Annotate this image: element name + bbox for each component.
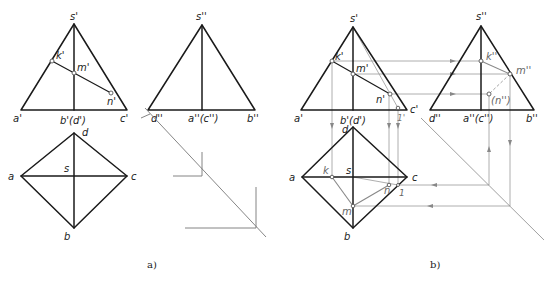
label-s-dprime: s'' [476,11,487,22]
projection-diagram: s' k' m' n' a' c' b'(d') d a c s b s'' d… [0,0,553,284]
panel-b-front-view: s' k' m' n' 1' a' c' b'(d') [294,13,418,126]
point-k [330,175,334,179]
panel-a-side-view: s'' d'' a''(c'') b'' [148,11,259,124]
label-b: b [344,231,350,242]
label-1-prime: 1' [397,113,405,123]
label-s-dprime: s'' [196,11,207,22]
panel-a-45-line [141,108,266,237]
label-d-dprime: d'' [429,113,441,124]
label-a-prime: a' [294,113,303,124]
point-m-prime [72,71,76,75]
label-b-d-prime: b'(d') [60,115,86,126]
point-1-prime [396,106,400,110]
label-c: c [131,171,137,182]
label-a-c-dprime: a''(c'') [188,113,218,124]
point-n-prime [109,91,113,95]
point-1 [397,184,400,187]
panel-a: s' k' m' n' a' c' b'(d') d a c s b s'' d… [8,11,266,270]
panel-b-construction-lines [330,27,544,240]
label-k-prime: k' [335,51,344,62]
point-m-prime [351,72,355,76]
point-k-dprime [479,59,483,63]
label-c-prime: c' [410,104,418,115]
caption-b: b) [430,259,440,270]
label-b-dprime: b'' [526,113,538,124]
label-m-prime: m' [77,62,90,73]
panel-b: s' k' m' n' 1' a' c' b'(d') d a c s k m … [289,11,544,270]
panel-a-front-view: s' k' m' n' a' c' b'(d') [13,11,128,126]
label-m-prime: m' [356,63,369,74]
label-c: c [412,172,418,183]
label-m-dprime: m'' [516,65,531,76]
label-n-prime: n' [107,96,116,107]
front-triangle [301,27,407,110]
label-d: d [82,127,89,138]
label-c-prime: c' [120,113,128,124]
caption-a: a) [147,259,157,270]
panel-a-top-view: d a c s b [8,127,137,242]
label-a: a [289,172,295,183]
label-d-dprime: d'' [151,113,163,124]
label-s: s [64,163,69,174]
panel-b-top-view: d a c s k m n 1 b [289,124,418,242]
label-a-prime: a' [13,113,22,124]
point-n-prime [388,92,392,96]
label-1: 1 [399,188,405,198]
label-a: a [8,171,14,182]
label-k: k [323,165,330,176]
label-a-c-dprime: a''(c'') [463,113,493,124]
label-n-prime: n' [376,94,385,105]
label-s-prime: s' [70,11,78,22]
label-s: s [346,165,351,176]
label-n-dprime: (n'') [491,95,511,106]
label-k-prime: k' [56,50,65,61]
label-m: m [342,206,352,217]
point-m-dprime [508,72,512,76]
label-s-prime: s' [350,13,358,24]
point-k-prime [330,59,334,63]
panel-b-side-view: s'' k'' m'' (n'') d'' a''(c'') b'' [429,11,538,124]
label-k-dprime: k'' [486,51,497,62]
label-n: n [384,185,390,196]
label-d: d [342,124,349,135]
label-b-dprime: b'' [247,113,259,124]
label-b: b [64,231,70,242]
point-k-prime [50,59,54,63]
